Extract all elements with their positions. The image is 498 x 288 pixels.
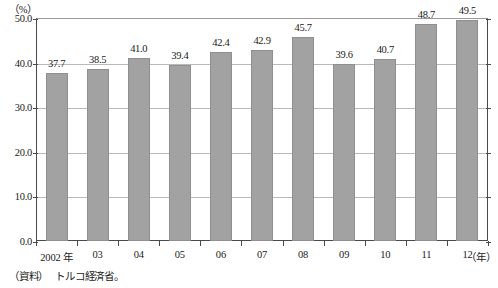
y-axis-tick-label: 0.0 [0, 236, 32, 247]
x-axis-tick [365, 241, 366, 246]
bar-value-label: 39.4 [171, 50, 188, 61]
bar [292, 37, 314, 241]
source-note: （資料）トルコ経済省。 [9, 268, 124, 283]
bars-container: 37.738.541.039.442.442.945.739.640.748.7… [36, 18, 488, 241]
bar-value-label: 38.5 [89, 54, 106, 65]
y-axis-tick-label: 40.0 [0, 57, 32, 68]
x-axis-tick [241, 241, 242, 246]
x-axis-tick [406, 241, 407, 246]
source-text: トルコ経済省。 [55, 271, 124, 282]
x-axis-tick-label: 2002 年 [40, 249, 72, 264]
bar-value-label: 48.7 [418, 9, 435, 20]
x-axis-tick [200, 241, 201, 246]
bar [251, 50, 273, 241]
x-axis-tick [36, 241, 37, 246]
bar-value-label: 41.0 [130, 43, 147, 54]
x-axis-tick [488, 241, 489, 246]
bar [87, 69, 109, 241]
x-axis-tick [77, 241, 78, 246]
x-axis-tick [118, 241, 119, 246]
x-axis-tick-label: 03 [93, 249, 103, 260]
bar [46, 73, 68, 241]
bar-value-label: 39.6 [336, 49, 353, 60]
y-axis-tick-label: 20.0 [0, 146, 32, 157]
x-axis-unit-label: （年） [466, 249, 495, 264]
bar-value-label: 40.7 [377, 44, 394, 55]
bar-value-label: 45.7 [294, 22, 311, 33]
bar [374, 59, 396, 241]
bar [128, 58, 150, 241]
bar-chart: （%） 0.010.020.030.040.050.0 37.738.541.0… [0, 0, 498, 288]
x-axis-tick-label: 09 [339, 249, 349, 260]
x-axis-tick-label: 08 [298, 249, 308, 260]
x-axis-tick-label: 06 [216, 249, 226, 260]
x-axis-tick-label: 07 [257, 249, 267, 260]
bar [210, 52, 232, 241]
bar [169, 65, 191, 241]
x-axis-tick-label: 04 [134, 249, 144, 260]
x-axis-tick [159, 241, 160, 246]
bar [333, 64, 355, 241]
x-axis-tick [447, 241, 448, 246]
bar-value-label: 49.5 [459, 5, 476, 16]
bar [415, 24, 437, 241]
y-axis-tick-label: 30.0 [0, 102, 32, 113]
source-label: （資料） [9, 271, 48, 282]
bar-value-label: 42.4 [212, 37, 229, 48]
x-axis-tick [283, 241, 284, 246]
bar [456, 20, 478, 241]
x-axis-tick-label: 11 [422, 249, 432, 260]
bar-value-label: 42.9 [253, 35, 270, 46]
y-axis-tick-label: 10.0 [0, 191, 32, 202]
x-axis-tick-label: 10 [380, 249, 390, 260]
bar-value-label: 37.7 [48, 58, 65, 69]
x-axis-tick [324, 241, 325, 246]
x-axis-tick-label: 05 [175, 249, 185, 260]
y-axis-unit-label: （%） [9, 1, 37, 16]
